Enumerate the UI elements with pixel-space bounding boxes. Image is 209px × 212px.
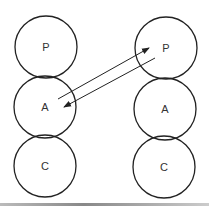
- right-column: P A C: [133, 17, 197, 198]
- left-node-c-label: C: [41, 160, 49, 172]
- right-node-p-label: P: [162, 42, 169, 54]
- left-node-p-label: P: [42, 41, 49, 53]
- arrow-left-a-to-right-p: [58, 48, 149, 99]
- diagram-canvas: P A C P A C: [0, 0, 209, 212]
- arrow-right-p-to-left-a: [64, 58, 155, 107]
- left-node-a-label: A: [41, 101, 49, 113]
- bottom-divider: [0, 203, 209, 206]
- right-node-c-label: C: [160, 161, 168, 173]
- right-node-a-label: A: [161, 103, 169, 115]
- left-column: P A C: [14, 16, 77, 197]
